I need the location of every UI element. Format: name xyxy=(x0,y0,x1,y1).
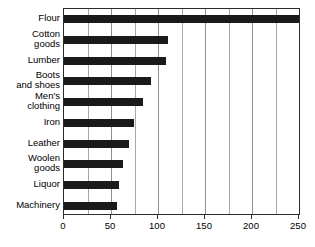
bar-series xyxy=(64,9,299,214)
axis-tick xyxy=(298,215,299,219)
category-label: Men's clothing xyxy=(0,91,60,111)
axis-tick-label: 150 xyxy=(196,220,212,231)
category-label: Iron xyxy=(0,117,60,127)
bar xyxy=(64,119,134,127)
axis-tick xyxy=(204,215,205,219)
bar xyxy=(64,181,119,189)
axis-tick-label: 200 xyxy=(243,220,259,231)
bar xyxy=(64,140,129,148)
axis-tick xyxy=(251,215,252,219)
bar xyxy=(64,202,117,210)
bar xyxy=(64,160,123,168)
category-label: Liquor xyxy=(0,179,60,189)
category-label: Machinery xyxy=(0,200,60,210)
axis-tick xyxy=(157,215,158,219)
bar xyxy=(64,15,299,23)
bar xyxy=(64,36,168,44)
value-axis: 050100150200250 xyxy=(63,215,300,245)
category-label: Woolen goods xyxy=(0,153,60,173)
plot-area xyxy=(63,8,300,215)
category-label: Lumber xyxy=(0,55,60,65)
category-label: Flour xyxy=(0,13,60,23)
axis-tick-label: 50 xyxy=(105,220,116,231)
bar-chart: FlourCotton goodsLumberBoots and shoesMe… xyxy=(0,0,315,247)
axis-tick xyxy=(63,215,64,219)
axis-tick-label: 100 xyxy=(149,220,165,231)
category-axis-labels: FlourCotton goodsLumberBoots and shoesMe… xyxy=(0,8,60,215)
category-label: Leather xyxy=(0,138,60,148)
axis-tick-label: 0 xyxy=(60,220,65,231)
category-label: Cotton goods xyxy=(0,29,60,49)
bar xyxy=(64,57,166,65)
category-label: Boots and shoes xyxy=(0,70,60,90)
axis-tick xyxy=(110,215,111,219)
bar xyxy=(64,77,151,85)
axis-tick-label: 250 xyxy=(290,220,306,231)
bar xyxy=(64,98,143,106)
